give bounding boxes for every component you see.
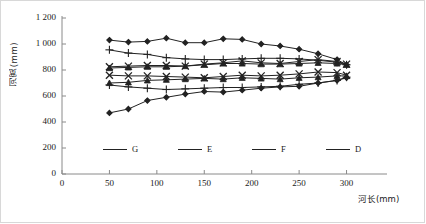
marker-diamond [297,47,302,52]
marker-diamond [145,98,150,103]
marker-diamond [278,84,283,89]
marker-diamond [126,106,131,111]
marker-diamond [126,39,131,44]
legend-swatch-cross-icon [252,145,276,154]
marker-diamond [183,40,188,45]
marker-diamond [107,38,112,43]
legend-swatch-triangle-icon [178,145,202,154]
legend-label: F [278,144,286,154]
legend-item-E[interactable]: E [178,142,212,156]
marker-diamond [183,91,188,96]
marker-diamond [259,41,264,46]
marker-diamond [164,36,169,41]
marker-diamond [240,88,245,93]
marker-diamond [164,95,169,100]
series-F-lower [106,68,350,81]
legend-item-F[interactable]: F [252,142,286,156]
marker-diamond [107,110,112,115]
marker-diamond [315,51,320,56]
marker-diamond [278,43,283,48]
legend-swatch-plus-icon [326,145,350,154]
marker-diamond [145,39,150,44]
plot-area [0,0,426,224]
legend-label: D [352,144,361,154]
legend-label: E [204,144,212,154]
legend-item-D[interactable]: D [326,142,361,156]
marker-diamond [240,37,245,42]
marker-diamond [221,90,226,95]
marker-diamond [221,36,226,41]
legend-label: G [129,144,138,154]
marker-diamond [202,89,207,94]
legend-swatch-diamond-icon [103,145,127,154]
marker-diamond [202,40,207,45]
marker-diamond [315,80,320,85]
chart-root: 河宽(mm) 河长(mm) 02004006008001 0001 200 05… [0,0,426,224]
legend-item-G[interactable]: G [103,142,138,156]
